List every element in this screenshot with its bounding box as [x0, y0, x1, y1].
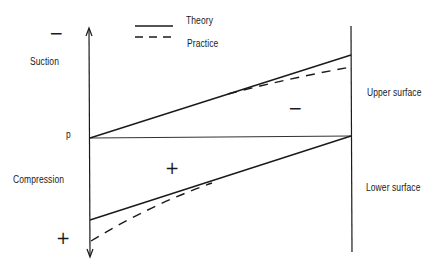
legend-theory-label: Theory — [186, 15, 213, 26]
lower-theory-line — [90, 136, 351, 220]
upper-practice-line — [228, 67, 351, 94]
axis-top-sign: − — [49, 25, 63, 42]
origin-label: p — [66, 129, 71, 140]
upper-theory-line — [90, 55, 351, 138]
axis-top-label: Suction — [30, 56, 59, 67]
axis-bottom-label: Compression — [13, 174, 64, 185]
legend-practice-label: Practice — [187, 38, 218, 49]
reference-pressure-line — [90, 136, 351, 138]
axis-bottom-sign: + — [56, 230, 70, 247]
upper-region-sign: − — [288, 100, 302, 117]
lower-region-sign: + — [165, 160, 179, 177]
upper-surface-label: Upper surface — [367, 87, 421, 98]
lower-practice-line — [91, 183, 212, 241]
pressure-axis — [89, 29, 90, 256]
trailing-edge-line — [351, 26, 352, 252]
lower-surface-label: Lower surface — [366, 182, 420, 193]
